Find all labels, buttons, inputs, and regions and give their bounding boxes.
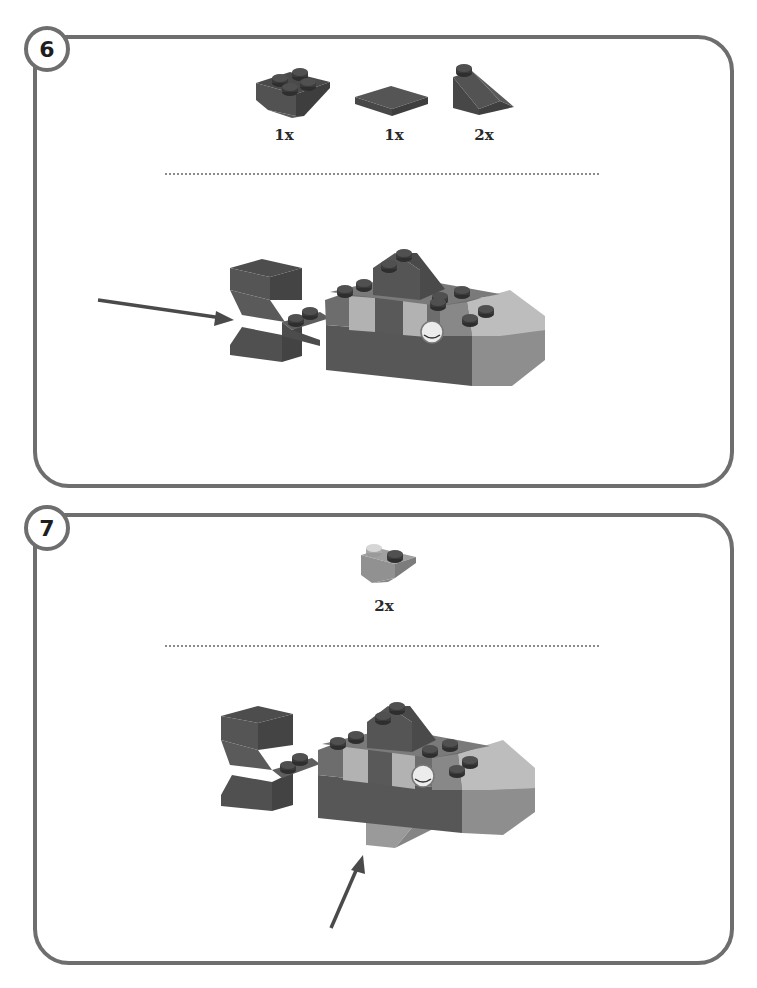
flat-tile-2x2-icon	[355, 86, 428, 116]
pointer-arrow-icon	[331, 855, 365, 928]
fish-model-step-6	[230, 249, 545, 386]
pointer-arrow-icon	[98, 300, 234, 326]
inverted-slope-brick-2x2-icon	[256, 68, 330, 118]
instruction-illustrations	[0, 0, 757, 988]
slope-brick-1x2-icon	[453, 64, 514, 115]
inverted-slope-brick-1x2-light-icon	[361, 544, 416, 583]
fish-model-step-7	[221, 702, 535, 848]
